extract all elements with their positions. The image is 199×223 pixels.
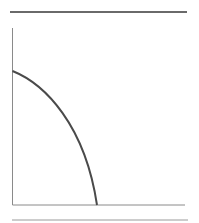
chart-figure — [0, 0, 199, 223]
frontier-curve — [13, 71, 98, 205]
